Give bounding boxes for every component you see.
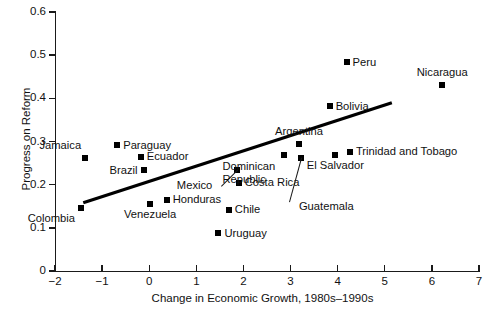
data-point-marker — [281, 152, 287, 158]
data-point-marker — [138, 154, 144, 160]
data-point-marker — [327, 103, 333, 109]
data-point-label: Chile — [235, 203, 261, 215]
data-point-marker — [82, 155, 88, 161]
data-point-marker — [347, 149, 353, 155]
data-point-marker — [147, 201, 153, 207]
data-point-label: El Salvador — [307, 159, 364, 171]
data-point-label: Mexico — [177, 179, 212, 191]
data-point-label: Peru — [353, 56, 377, 68]
data-point-label: Bolivia — [336, 100, 369, 112]
data-point-marker — [141, 167, 147, 173]
data-point-label: Colombia — [28, 212, 75, 224]
data-point-label: Trinidad and Tobago — [356, 145, 457, 157]
data-point-marker — [114, 142, 120, 148]
y-axis-title: Progress on Reform — [20, 64, 32, 214]
data-point-label: Dominican Republic — [222, 160, 288, 184]
data-point-label: Uruguay — [224, 227, 266, 239]
x-axis-title: Change in Economic Growth, 1980s–1990s — [0, 292, 491, 304]
data-point-marker — [226, 207, 232, 213]
data-point-label: Guatemala — [299, 200, 354, 212]
data-point-marker — [78, 205, 84, 211]
data-point-label: Ecuador — [147, 150, 189, 162]
scatter-chart: 00.10.20.30.40.50.6 −2−101234567 Colombi… — [0, 0, 491, 314]
data-point-label: Jamaica — [39, 139, 81, 151]
plot-area: 00.10.20.30.40.50.6 −2−101234567 Colombi… — [0, 0, 491, 314]
data-point-marker — [439, 82, 445, 88]
data-point-marker — [164, 197, 170, 203]
data-point-label: Brazil — [110, 164, 138, 176]
data-point-label: Argentina — [275, 125, 323, 137]
data-point-label: Honduras — [173, 193, 222, 205]
data-point-label: Venezuela — [124, 208, 176, 220]
data-point-marker — [215, 230, 221, 236]
data-point-label: Nicaragua — [417, 66, 468, 78]
data-point-marker — [296, 141, 302, 147]
data-point-marker — [344, 59, 350, 65]
data-point-marker — [332, 152, 338, 158]
